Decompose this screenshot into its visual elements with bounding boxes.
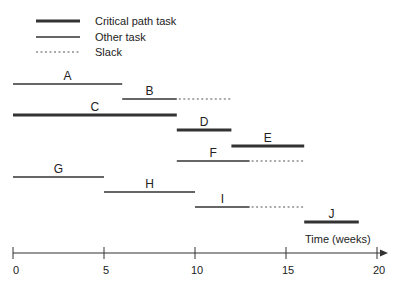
task-label: H [145, 177, 154, 191]
task-bars: ABCDEFGHIJ [13, 69, 359, 222]
time-axis: 05101520 Time (weeks) [13, 233, 388, 276]
task-g: G [13, 162, 104, 177]
task-label: G [54, 162, 63, 176]
legend-other-label: Other task [95, 31, 146, 43]
legend-slack-label: Slack [95, 46, 122, 58]
task-i: I [195, 192, 304, 207]
task-label: J [329, 207, 335, 221]
task-f: F [177, 146, 304, 161]
axis-tick-label: 10 [191, 264, 203, 276]
legend-critical-label: Critical path task [95, 15, 177, 27]
task-b: B [122, 84, 231, 99]
task-label: E [264, 131, 272, 145]
legend: Critical path task Other task Slack [36, 15, 177, 58]
task-j: J [304, 207, 359, 222]
gantt-diagram: Critical path task Other task Slack ABCD… [0, 0, 398, 290]
task-c: C [13, 100, 177, 115]
task-a: A [13, 69, 122, 84]
task-label: I [221, 192, 224, 206]
axis-tick-label: 5 [103, 264, 109, 276]
axis-tick-label: 20 [373, 264, 385, 276]
axis-arrow-icon [380, 250, 388, 257]
task-label: F [210, 146, 217, 160]
task-e: E [231, 131, 304, 146]
task-label: B [145, 84, 153, 98]
task-label: D [200, 115, 209, 129]
task-label: C [91, 100, 100, 114]
axis-label: Time (weeks) [305, 233, 371, 245]
axis-tick-label: 0 [13, 264, 19, 276]
task-h: H [104, 177, 195, 192]
task-d: D [177, 115, 232, 130]
axis-tick-label: 15 [282, 264, 294, 276]
task-label: A [64, 69, 72, 83]
